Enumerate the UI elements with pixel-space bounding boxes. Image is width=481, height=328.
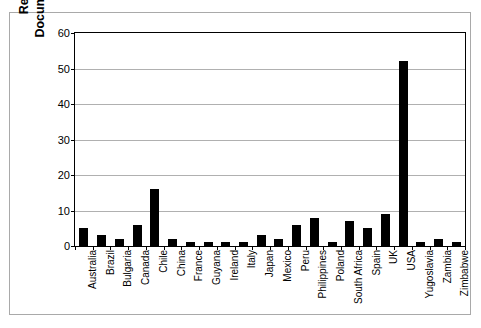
bar-slot — [341, 33, 359, 246]
bar-slot — [75, 33, 93, 246]
x-label-slot: Australia — [74, 250, 92, 320]
x-label-slot: Yugoslavia — [411, 250, 429, 320]
bar — [115, 239, 124, 246]
bar — [168, 239, 177, 246]
bar-slot — [323, 33, 341, 246]
x-label-slot: Spain — [358, 250, 376, 320]
bar — [363, 228, 372, 246]
bar — [345, 221, 354, 246]
bar-slot — [128, 33, 146, 246]
y-tick-label: 0 — [64, 240, 70, 252]
bar-slot — [199, 33, 217, 246]
bar — [97, 235, 106, 246]
x-tick-label: Zimbabwe — [459, 250, 470, 296]
plot-area: 0102030405060 — [74, 32, 466, 247]
x-label-slot: Mexico — [269, 250, 287, 320]
bar-slot — [430, 33, 448, 246]
y-tick-label: 10 — [58, 205, 70, 217]
bar-slot — [93, 33, 111, 246]
y-tick-label: 50 — [58, 63, 70, 75]
x-label-slot: Poland — [322, 250, 340, 320]
bar — [381, 214, 390, 246]
bars-group — [75, 33, 465, 246]
bar-slot — [412, 33, 430, 246]
y-axis-title-line-1: Reported and — [16, 0, 32, 14]
bar-chart-figure: Reported and Documented Failures 0102030… — [0, 0, 481, 328]
bar — [310, 218, 319, 246]
x-label-slot: Zambia — [429, 250, 447, 320]
bar-slot — [252, 33, 270, 246]
y-tick-label: 60 — [58, 27, 70, 39]
x-label-slot: Guyana — [198, 250, 216, 320]
bar-slot — [359, 33, 377, 246]
bar — [257, 235, 266, 246]
bar-slot — [270, 33, 288, 246]
bar — [133, 225, 142, 246]
x-label-slot: USA — [393, 250, 411, 320]
bar-slot — [217, 33, 235, 246]
x-label-slot: South Africa — [340, 250, 358, 320]
x-label-slot: Zimbabwe — [446, 250, 464, 320]
x-label-slot: China — [163, 250, 181, 320]
bar-slot — [376, 33, 394, 246]
x-label-slot: Bulgaria — [109, 250, 127, 320]
y-tick-label: 20 — [58, 169, 70, 181]
y-tick-label: 40 — [58, 98, 70, 110]
bar-slot — [288, 33, 306, 246]
bar-slot — [181, 33, 199, 246]
bar-slot — [146, 33, 164, 246]
bar-slot — [306, 33, 324, 246]
bar — [399, 61, 408, 246]
x-label-slot: Chile — [145, 250, 163, 320]
bar-slot — [447, 33, 465, 246]
x-label-slot: Italy — [234, 250, 252, 320]
x-label-slot: Philippines — [305, 250, 323, 320]
bar — [150, 189, 159, 246]
x-label-slot: France — [180, 250, 198, 320]
x-axis-category-labels: AustraliaBrazilBulgariaCanadaChileChinaF… — [74, 250, 464, 320]
bar — [274, 239, 283, 246]
x-label-slot: Ireland — [216, 250, 234, 320]
bar — [292, 225, 301, 246]
x-label-slot: Brazil — [92, 250, 110, 320]
y-axis-title: Reported and Documented Failures — [14, 0, 50, 74]
bar-slot — [394, 33, 412, 246]
x-label-slot: Japan — [251, 250, 269, 320]
bar-slot — [235, 33, 253, 246]
bar — [434, 239, 443, 246]
bar — [79, 228, 88, 246]
bar-slot — [164, 33, 182, 246]
y-axis-title-line-2: Documented Failures — [32, 0, 48, 38]
y-tick-label: 30 — [58, 134, 70, 146]
x-label-slot: Peru — [287, 250, 305, 320]
x-label-slot: UK — [375, 250, 393, 320]
x-label-slot: Canada — [127, 250, 145, 320]
bar-slot — [110, 33, 128, 246]
